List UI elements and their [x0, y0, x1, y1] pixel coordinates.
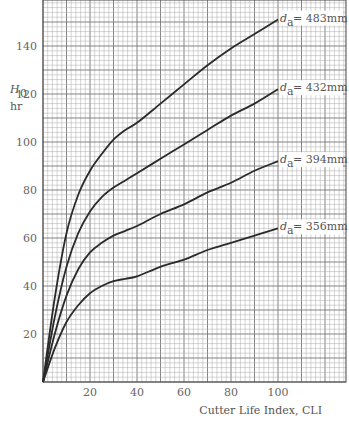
- y-axis-unit: hr: [10, 100, 23, 113]
- y-tick-label: 40: [23, 280, 37, 293]
- curve-label-1: d: [280, 81, 287, 94]
- chart: da= 483mmda= 432mmda= 394mmda= 356mm 204…: [0, 0, 349, 421]
- svg-text:= 356mm: = 356mm: [293, 220, 348, 233]
- y-tick-label: 100: [16, 136, 37, 149]
- x-tick-label: 100: [268, 386, 289, 399]
- curve-label-0: d: [280, 12, 287, 25]
- x-axis-label: Cutter Life Index, CLI: [199, 404, 322, 417]
- grid: [43, 0, 346, 382]
- x-axis-ticks: 20406080100: [83, 386, 289, 399]
- x-tick-label: 40: [130, 386, 144, 399]
- y-axis-label: H: [9, 83, 20, 96]
- curve-labels: da= 483mmda= 432mmda= 394mmda= 356mm: [279, 11, 348, 238]
- svg-text:= 483mm: = 483mm: [293, 12, 348, 25]
- svg-text:= 432mm: = 432mm: [293, 81, 348, 94]
- x-tick-label: 80: [224, 386, 238, 399]
- y-tick-label: 60: [23, 232, 37, 245]
- x-tick-label: 60: [177, 386, 191, 399]
- y-tick-label: 80: [23, 184, 37, 197]
- curve-label-2: d: [280, 153, 287, 166]
- svg-text:= 394mm: = 394mm: [293, 153, 348, 166]
- y-tick-label: 20: [23, 328, 37, 341]
- curve-label-3: d: [280, 220, 287, 233]
- y-tick-label: 140: [16, 40, 37, 53]
- y-axis-label-subscript: 0: [20, 87, 27, 100]
- x-tick-label: 20: [83, 386, 97, 399]
